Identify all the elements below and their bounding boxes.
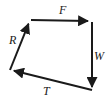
vector-label-t: T: [43, 85, 50, 97]
vector-f-line: [31, 20, 88, 21]
vector-t-line: [14, 71, 92, 90]
vector-diagram: F W T R: [0, 0, 111, 103]
vector-label-f: F: [59, 4, 66, 16]
vector-label-r: R: [9, 34, 16, 46]
vector-label-w: W: [94, 50, 104, 62]
